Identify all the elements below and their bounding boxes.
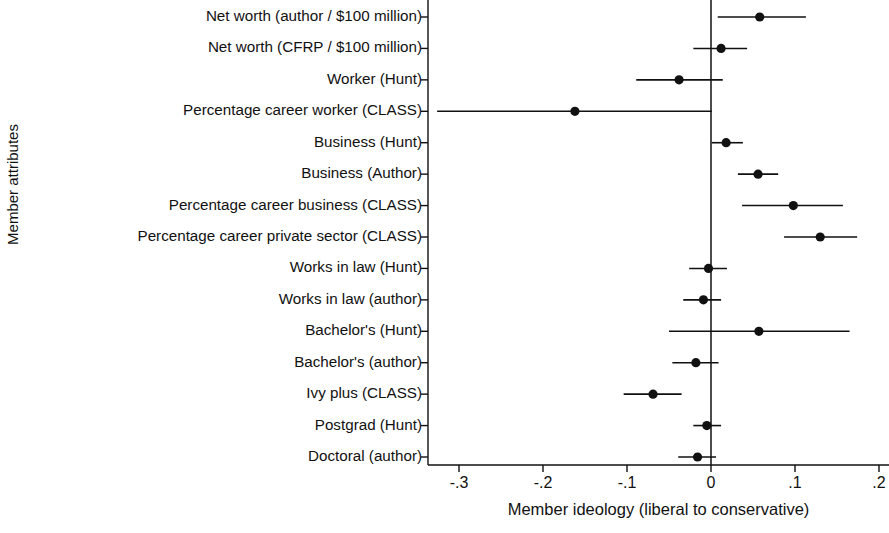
point-estimate-marker bbox=[716, 44, 725, 53]
estimate-row bbox=[693, 44, 747, 53]
estimate-row bbox=[636, 75, 723, 84]
estimate-row bbox=[624, 390, 682, 399]
x-axis-tick-label: .2 bbox=[849, 474, 889, 492]
estimate-row bbox=[693, 421, 721, 430]
plot-canvas bbox=[0, 0, 889, 533]
point-estimate-marker bbox=[754, 327, 763, 336]
point-estimate-marker bbox=[722, 138, 731, 147]
point-estimate-marker bbox=[691, 358, 700, 367]
point-estimate-marker bbox=[693, 452, 702, 461]
point-estimate-marker bbox=[699, 295, 708, 304]
estimate-row bbox=[437, 107, 712, 116]
estimate-row bbox=[718, 12, 806, 21]
estimate-row bbox=[683, 295, 721, 304]
x-axis-title: Member ideology (liberal to conservative… bbox=[428, 500, 889, 519]
estimate-row bbox=[738, 170, 778, 179]
point-estimate-marker bbox=[674, 75, 683, 84]
point-estimate-marker bbox=[753, 170, 762, 179]
x-axis-tick-label: -.2 bbox=[513, 474, 573, 492]
estimate-row bbox=[689, 264, 727, 273]
estimate-row bbox=[669, 327, 850, 336]
estimate-row bbox=[784, 232, 857, 241]
coefficient-plot-figure: Member attributes Net worth (author / $1… bbox=[0, 0, 889, 533]
x-axis-tick-label: -.1 bbox=[597, 474, 657, 492]
point-estimate-marker bbox=[648, 390, 657, 399]
estimate-row bbox=[712, 138, 743, 147]
point-estimate-marker bbox=[704, 264, 713, 273]
estimate-row bbox=[742, 201, 843, 210]
point-estimate-marker bbox=[789, 201, 798, 210]
point-estimate-marker bbox=[570, 107, 579, 116]
x-axis-tick-label: 0 bbox=[681, 474, 741, 492]
x-axis-tick-label: -.3 bbox=[429, 474, 489, 492]
point-estimate-marker bbox=[816, 232, 825, 241]
point-estimate-marker bbox=[755, 12, 764, 21]
point-estimate-marker bbox=[702, 421, 711, 430]
x-axis-tick-label: .1 bbox=[765, 474, 825, 492]
